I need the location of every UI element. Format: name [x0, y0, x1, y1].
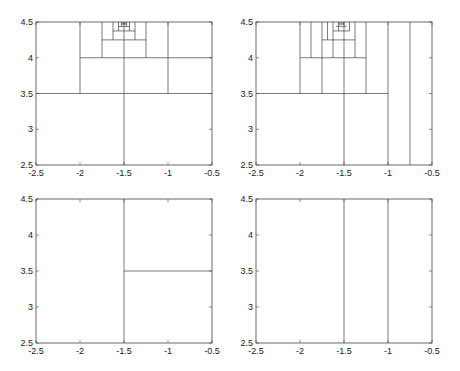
y-tick-label: 3 — [28, 124, 33, 134]
figure-canvas: -2.5-2-1.5-1-0.52.533.544.5 -2.5-2-1.5-1… — [0, 0, 460, 371]
y-tick-label: 3.5 — [240, 266, 253, 276]
x-tick-label: -2 — [296, 346, 304, 356]
x-tick-label: -1 — [384, 346, 392, 356]
y-tick-label: 2.5 — [20, 338, 33, 348]
x-tick-label: -0.5 — [424, 346, 440, 356]
y-tick-label: 3 — [28, 302, 33, 312]
y-tick-label: 3.5 — [20, 89, 33, 99]
x-tick-label: -2 — [76, 168, 84, 178]
y-tick-label: 4.5 — [240, 194, 253, 204]
x-tick-label: -1.5 — [336, 168, 352, 178]
y-tick-label: 4 — [28, 53, 33, 63]
plot-bottom-right: -2.5-2-1.5-1-0.52.533.544.5 — [240, 194, 439, 356]
partition-lines — [124, 199, 212, 343]
y-tick-label: 4.5 — [20, 194, 33, 204]
plot-bottom-left: -2.5-2-1.5-1-0.52.533.544.5 — [20, 194, 219, 356]
x-tick-label: -1 — [164, 346, 172, 356]
partition-lines — [344, 199, 388, 343]
x-tick-label: -0.5 — [424, 168, 440, 178]
x-tick-label: -2 — [76, 346, 84, 356]
y-tick-label: 3.5 — [240, 89, 253, 99]
y-tick-label: 4.5 — [240, 17, 253, 27]
partition-lines — [36, 22, 212, 165]
y-tick-label: 2.5 — [240, 160, 253, 170]
y-tick-label: 4 — [248, 53, 253, 63]
y-tick-label: 3 — [248, 302, 253, 312]
x-tick-label: -1 — [164, 168, 172, 178]
y-tick-label: 4 — [248, 230, 253, 240]
x-tick-label: -1.5 — [336, 346, 352, 356]
partition-lines — [256, 22, 410, 165]
x-tick-label: -1.5 — [116, 346, 132, 356]
x-tick-label: -2 — [296, 168, 304, 178]
y-tick-label: 2.5 — [240, 338, 253, 348]
y-tick-label: 2.5 — [20, 160, 33, 170]
plot-top-left: -2.5-2-1.5-1-0.52.533.544.5 — [20, 17, 219, 178]
y-tick-label: 3.5 — [20, 266, 33, 276]
x-tick-label: -0.5 — [204, 346, 220, 356]
x-tick-label: -1 — [384, 168, 392, 178]
y-tick-label: 3 — [248, 124, 253, 134]
y-tick-label: 4 — [28, 230, 33, 240]
x-tick-label: -1.5 — [116, 168, 132, 178]
y-tick-label: 4.5 — [20, 17, 33, 27]
plot-top-right: -2.5-2-1.5-1-0.52.533.544.5 — [240, 17, 439, 178]
x-tick-label: -0.5 — [204, 168, 220, 178]
